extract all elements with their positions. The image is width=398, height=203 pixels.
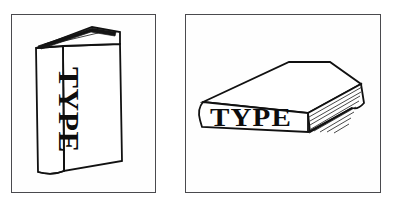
standing-book-title: TYPE	[53, 67, 86, 153]
lying-book-illustration: TYPE	[186, 15, 380, 192]
standing-book-panel: TYPE	[11, 14, 156, 193]
lying-book-title: TYPE	[210, 103, 292, 132]
standing-book-illustration: TYPE	[12, 15, 155, 192]
book-type-figure: TYPE	[0, 0, 398, 203]
lying-book-panel: TYPE	[185, 14, 381, 193]
